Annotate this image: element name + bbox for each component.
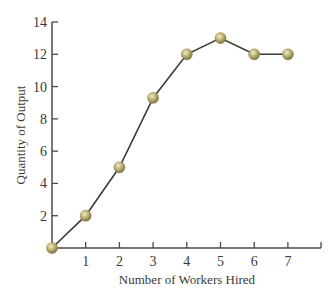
data-point-marker	[181, 49, 192, 60]
x-tick-label: 7	[284, 254, 291, 269]
data-point-marker	[282, 49, 293, 60]
y-tick-label: 8	[40, 112, 47, 127]
line-chart: 2468101214 1234567 Number of Workers Hir…	[0, 0, 336, 295]
y-tick-label: 2	[40, 209, 47, 224]
data-point-marker	[80, 210, 91, 221]
y-tick-label: 12	[33, 47, 47, 62]
x-axis-ticks: 1234567	[82, 242, 291, 269]
x-tick-label: 1	[82, 254, 89, 269]
data-points	[46, 33, 293, 254]
x-tick-label: 6	[251, 254, 258, 269]
y-axis-ticks: 2468101214	[33, 15, 58, 224]
data-point-marker	[249, 49, 260, 60]
x-tick-label: 3	[150, 254, 157, 269]
data-point-marker	[215, 33, 226, 44]
y-tick-label: 6	[40, 144, 47, 159]
y-tick-label: 10	[33, 80, 47, 95]
data-point-marker	[148, 92, 159, 103]
y-tick-label: 4	[40, 176, 47, 191]
x-axis-label: Number of Workers Hired	[119, 272, 256, 287]
y-tick-label: 14	[33, 15, 47, 30]
data-point-marker	[46, 242, 57, 253]
x-tick-label: 2	[116, 254, 123, 269]
x-tick-label: 4	[183, 254, 190, 269]
x-tick-label: 5	[217, 254, 224, 269]
chart: 2468101214 1234567 Number of Workers Hir…	[0, 0, 336, 295]
data-point-marker	[114, 162, 125, 173]
y-axis-label: Quantity of Output	[13, 85, 28, 184]
